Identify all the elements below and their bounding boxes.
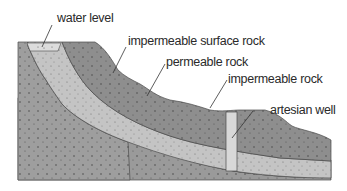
permeable-rock-label: permeable rock: [166, 56, 248, 69]
water-level-pool: [27, 43, 61, 51]
artesian-well-diagram: [0, 0, 347, 191]
impermeable-surface-rock-label: impermeable surface rock: [128, 35, 265, 48]
artesian-well-label: artesian well: [270, 104, 336, 117]
artesian-well-shaft: [226, 112, 237, 171]
impermeable-rock-label: impermeable rock: [228, 73, 323, 86]
water-level-label: water level: [57, 12, 113, 25]
